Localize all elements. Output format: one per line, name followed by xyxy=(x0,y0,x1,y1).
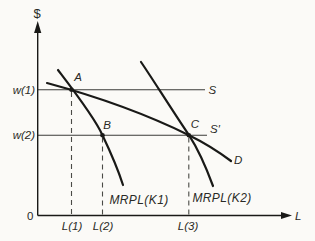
mrpl-k2-curve xyxy=(141,62,213,186)
demand-d-label: D xyxy=(234,154,242,166)
point-b-label: B xyxy=(103,119,111,131)
point-c-dot xyxy=(187,133,192,138)
wage-axis-label: $ xyxy=(33,6,41,21)
supply-s-prime-label: S′ xyxy=(210,123,221,135)
wage-axis-arrowhead xyxy=(34,21,41,33)
origin-label: 0 xyxy=(27,210,33,222)
mrpl-k2-label: MRPL(K2) xyxy=(192,191,251,205)
labor-axis-arrowhead xyxy=(281,212,292,219)
labor-l3-label: L(3) xyxy=(178,220,199,232)
mrpl-k1-curve xyxy=(58,70,123,185)
diagram-canvas: $ L 0 w(1) w(2) L(1) L(2) L(3) A B C S S… xyxy=(0,0,315,241)
point-a-dot xyxy=(69,88,74,93)
demand-curve xyxy=(47,83,231,161)
supply-s-label: S xyxy=(209,84,217,96)
wage-w2-label: w(2) xyxy=(13,129,36,141)
labor-l2-label: L(2) xyxy=(93,220,114,232)
point-b-dot xyxy=(100,133,105,138)
labor-l1-label: L(1) xyxy=(62,220,83,232)
mrpl-k1-label: MRPL(K1) xyxy=(109,193,168,207)
point-c-label: C xyxy=(191,118,200,130)
labor-axis-label: L xyxy=(295,210,301,222)
wage-w1-label: w(1) xyxy=(13,84,36,96)
point-a-label: A xyxy=(73,71,82,83)
economics-diagram: $ L 0 w(1) w(2) L(1) L(2) L(3) A B C S S… xyxy=(0,0,315,241)
